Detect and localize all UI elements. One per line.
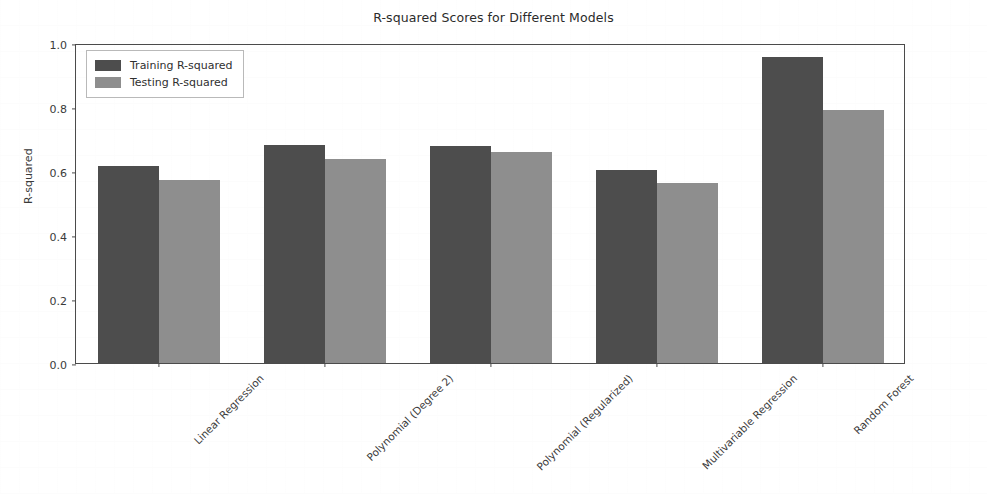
x-axis-tick-mark [490,363,491,367]
bar-training [430,146,491,363]
legend-item: Training R-squared [95,57,233,74]
bar-training [762,57,823,363]
x-axis-tick-mark [158,363,159,367]
y-axis-tick-label: 0.4 [50,231,77,244]
bar-testing [657,183,718,363]
y-axis-tick-label: 0.0 [50,359,77,372]
chart-figure: R-squared Scores for Different Models R-… [0,0,987,494]
x-axis-tick-mark [656,363,657,367]
legend-item: Testing R-squared [95,74,233,91]
legend-label: Testing R-squared [130,76,228,89]
chart-title: R-squared Scores for Different Models [0,10,987,25]
x-axis-tick-label: Multivariable Regression [700,372,800,472]
bar-testing [325,159,386,363]
chart-legend: Training R-squaredTesting R-squared [86,50,244,98]
x-axis-tick-mark [822,363,823,367]
y-axis-tick-label: 0.2 [50,295,77,308]
y-axis-tick-label: 0.8 [50,103,77,116]
x-axis-tick-label: Random Forest [851,372,915,436]
x-axis-tick-label: Linear Regression [191,372,266,447]
y-axis-label: R-squared [22,148,35,204]
legend-label: Training R-squared [130,59,233,72]
x-axis-tick-label: Polynomial (Degree 2) [364,372,455,463]
bar-testing [491,152,552,363]
bar-training [98,166,159,363]
bar-testing [823,110,884,363]
legend-swatch-testing [95,77,121,88]
bar-training [596,170,657,363]
legend-swatch-training [95,60,121,71]
bar-training [264,145,325,363]
y-axis-tick-label: 1.0 [50,39,77,52]
y-axis-tick-label: 0.6 [50,167,77,180]
x-axis-tick-mark [324,363,325,367]
bar-testing [159,180,220,363]
x-axis-tick-label: Polynomial (Regularized) [534,372,635,473]
